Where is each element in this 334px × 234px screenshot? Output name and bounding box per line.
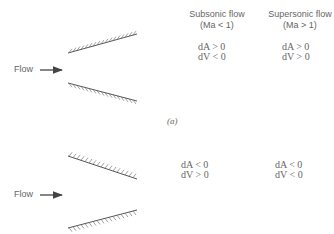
panel-b-upper-wall — [68, 152, 137, 179]
subsonic-condition: (Ma < 1) — [172, 20, 262, 30]
panel-b-subsonic-dV: dV > 0 — [181, 170, 209, 180]
panel-a-subsonic-dV: dV < 0 — [198, 52, 226, 62]
supersonic-header: Supersonic flow — [255, 9, 334, 19]
panel-a-lower-wall — [68, 83, 137, 104]
panel-a-caption: (a) — [167, 116, 178, 126]
panel-a-supersonic-dV: dV > 0 — [282, 52, 310, 62]
flow-label-b: Flow — [14, 189, 33, 199]
flow-label-a: Flow — [14, 64, 33, 74]
supersonic-condition: (Ma > 1) — [255, 20, 334, 30]
panel-b-supersonic-dV: dV < 0 — [275, 170, 303, 180]
panel-a-upper-wall — [68, 31, 137, 53]
subsonic-header: Subsonic flow — [172, 9, 262, 19]
panel-b-lower-wall — [68, 210, 137, 232]
